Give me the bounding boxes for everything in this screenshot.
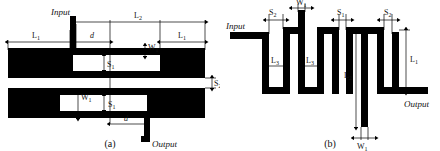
lower-resonator-bar <box>8 88 205 118</box>
meander-leg-5 <box>332 27 339 94</box>
dim-L1-right: L1 <box>178 31 186 41</box>
input-feed-stub <box>70 16 76 50</box>
panel-a-diagram: Input Output L1 L2 L1 d d <box>0 0 220 151</box>
dim-S2-left: S2 <box>269 8 276 18</box>
meander-conductor <box>230 10 428 127</box>
input-port-label: Input <box>225 21 245 31</box>
dim-S1-mid: S1 <box>337 8 344 18</box>
panel-b-diagram: Input Output S2 W1 S1 S2 <box>220 0 440 151</box>
dim-L1-right: L1 <box>410 55 418 65</box>
dim-L3-second: L3 <box>306 56 314 66</box>
figure-container: Input Output L1 L2 L1 d d <box>0 0 440 151</box>
output-port-label: Output <box>404 99 430 109</box>
meander-leg-9 <box>392 32 399 94</box>
meander-leg-4 <box>317 27 324 94</box>
panel-b-caption: (b) <box>220 138 440 149</box>
panel-a-caption: (a) <box>0 138 220 149</box>
meander-leg-7-L2 <box>361 27 368 127</box>
output-lead <box>392 87 428 94</box>
dim-W1-top: W1 <box>148 43 159 53</box>
input-port-label: Input <box>50 7 70 17</box>
dim-d-top: d <box>90 31 95 40</box>
dim-L3-first: L3 <box>271 56 279 66</box>
meander-leg-8 <box>377 27 384 94</box>
panel-a: Input Output L1 L2 L1 d d <box>0 0 220 151</box>
meander-leg-1 <box>262 32 269 94</box>
dim-L2-top: L2 <box>134 11 142 21</box>
dim-S1-top: S1 <box>107 60 114 70</box>
meander-leg-3 <box>298 10 305 94</box>
dim-S1-bottom: S1 <box>108 100 115 110</box>
meander-leg-6 <box>346 27 353 94</box>
dim-W1-top: W1 <box>296 0 307 8</box>
panel-b: Input Output S2 W1 S1 S2 <box>220 0 440 151</box>
meander-leg-2 <box>283 27 290 94</box>
dim-S2-right: S2 <box>384 8 391 18</box>
dim-L1-left: L1 <box>32 31 40 41</box>
